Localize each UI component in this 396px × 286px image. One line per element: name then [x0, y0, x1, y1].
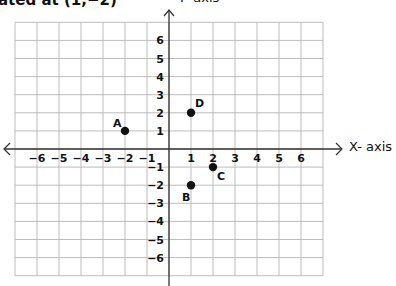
- coordinate-plane: −6−5−4−3−2−1123456654321−1−2−3−4−5−6ABCD: [0, 0, 396, 286]
- x-tick-label: 3: [231, 152, 239, 165]
- point-label-c: C: [217, 170, 225, 183]
- x-tick-label: 5: [275, 152, 283, 165]
- point-label-d: D: [195, 97, 204, 110]
- x-tick-label: −2: [117, 152, 134, 165]
- point-a: [121, 127, 129, 135]
- x-tick-label: −3: [95, 152, 112, 165]
- y-tick-label: 1: [156, 125, 164, 138]
- x-tick-label: 6: [297, 152, 305, 165]
- point-b: [187, 181, 195, 189]
- y-tick-label: −4: [147, 215, 164, 228]
- point-label-a: A: [113, 117, 122, 130]
- y-tick-label: 4: [156, 71, 164, 84]
- y-tick-label: −1: [147, 161, 164, 174]
- x-tick-label: −5: [51, 152, 68, 165]
- y-tick-label: 6: [156, 34, 164, 47]
- point-d: [187, 109, 195, 117]
- point-c: [209, 163, 217, 171]
- y-tick-label: −3: [147, 197, 164, 210]
- x-tick-label: 4: [253, 152, 261, 165]
- point-label-b: B: [182, 191, 190, 204]
- x-tick-label: −4: [73, 152, 90, 165]
- y-tick-label: 3: [156, 89, 164, 102]
- y-tick-label: 5: [156, 53, 164, 66]
- y-tick-label: −2: [147, 179, 164, 192]
- x-tick-label: 1: [187, 152, 195, 165]
- y-tick-label: 2: [156, 107, 164, 120]
- y-tick-label: −6: [147, 252, 164, 265]
- x-tick-label: −6: [29, 152, 46, 165]
- y-tick-label: −5: [147, 234, 164, 247]
